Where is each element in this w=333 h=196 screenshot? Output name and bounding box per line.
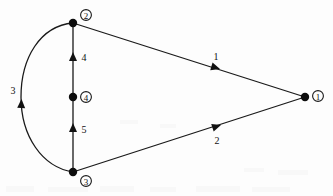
edge-5-label: 5 bbox=[82, 124, 87, 135]
edge-3-label: 3 bbox=[11, 85, 16, 96]
graph-canvas: 1 2 3 4 5 1 bbox=[0, 0, 333, 196]
edge-5-group: 5 bbox=[69, 97, 87, 172]
node-1-dot[interactable] bbox=[301, 93, 309, 101]
edge-1-line bbox=[73, 23, 305, 97]
edge-3-group: 3 bbox=[11, 23, 74, 172]
node-2-dot[interactable] bbox=[69, 19, 77, 27]
edge-3-arrowhead-icon bbox=[17, 99, 25, 108]
node-3-group[interactable]: 3 bbox=[69, 168, 92, 187]
node-2-label: 2 bbox=[84, 11, 89, 21]
node-2-group[interactable]: 2 bbox=[69, 10, 92, 28]
edge-2-line bbox=[73, 97, 305, 172]
node-4-label: 4 bbox=[84, 93, 89, 103]
edge-2-label: 2 bbox=[215, 135, 220, 146]
edge-4-arrowhead-icon bbox=[69, 52, 77, 61]
edge-4-group: 4 bbox=[69, 23, 87, 97]
node-1-label: 1 bbox=[316, 92, 321, 102]
edge-1-group: 1 bbox=[73, 23, 305, 97]
edge-2-arrowhead-icon bbox=[211, 121, 222, 131]
graph-diagram: 1 2 3 4 5 1 bbox=[0, 0, 333, 196]
node-4-dot[interactable] bbox=[69, 93, 77, 101]
edge-3-curve bbox=[21, 23, 73, 172]
node-1-group[interactable]: 1 bbox=[301, 91, 324, 102]
node-3-label: 3 bbox=[84, 177, 89, 187]
node-3-dot[interactable] bbox=[69, 168, 77, 176]
node-4-group[interactable]: 4 bbox=[69, 92, 92, 103]
edge-4-label: 4 bbox=[82, 52, 87, 63]
edge-5-arrowhead-icon bbox=[69, 123, 77, 132]
edge-2-group: 2 bbox=[73, 97, 305, 172]
edge-1-label: 1 bbox=[214, 51, 219, 62]
edge-1-arrowhead-icon bbox=[210, 63, 221, 73]
